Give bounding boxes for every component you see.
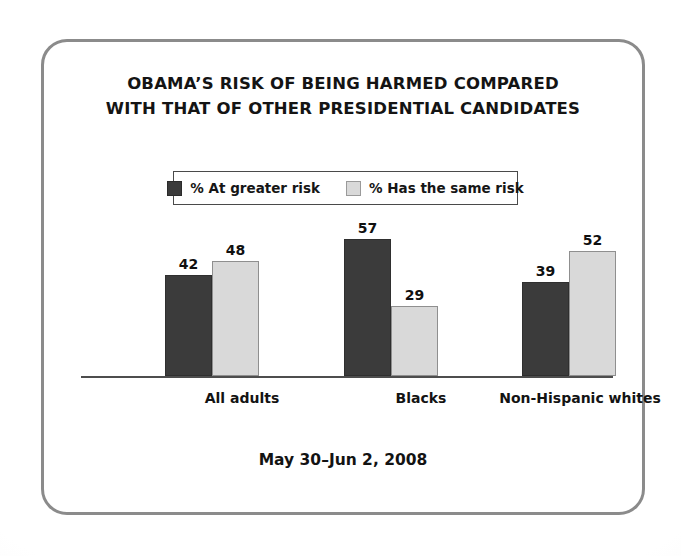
bar-wrap-all-adults-greater: 42 [165, 232, 212, 376]
bar-group-non-hispanic-whites: 39 52 [522, 232, 616, 376]
bar-blacks-same [391, 306, 438, 376]
bar-wrap-blacks-greater: 57 [344, 232, 391, 376]
bar-value-all-adults-greater: 42 [165, 256, 212, 272]
legend-label-at-greater-risk: % At greater risk [190, 180, 320, 196]
bar-all-adults-greater [165, 275, 212, 376]
legend-entry-has-the-same-risk: % Has the same risk [346, 180, 524, 196]
legend-entry-at-greater-risk: % At greater risk [167, 180, 320, 196]
chart-card: OBAMA’S RISK OF BEING HARMED COMPARED WI… [41, 39, 645, 515]
bar-value-all-adults-same: 48 [212, 242, 259, 258]
legend-label-has-the-same-risk: % Has the same risk [369, 180, 524, 196]
legend-swatch-icon-light [346, 181, 361, 196]
chart-title: OBAMA’S RISK OF BEING HARMED COMPARED WI… [44, 71, 642, 121]
bar-blacks-greater [344, 239, 391, 376]
bar-wrap-blacks-same: 29 [391, 232, 438, 376]
bar-value-blacks-same: 29 [391, 287, 438, 303]
bar-non-hispanic-whites-greater [522, 282, 569, 376]
bar-group-all-adults: 42 48 [165, 232, 259, 376]
legend-swatch-icon-dark [167, 181, 182, 196]
chart-legend: % At greater risk % Has the same risk [173, 171, 518, 205]
bar-non-hispanic-whites-same [569, 251, 616, 376]
bar-value-non-hispanic-whites-greater: 39 [522, 263, 569, 279]
bar-value-non-hispanic-whites-same: 52 [569, 232, 616, 248]
bar-wrap-non-hispanic-whites-greater: 39 [522, 232, 569, 376]
category-label-all-adults: All adults [162, 390, 322, 406]
bar-group-blacks: 57 29 [344, 232, 438, 376]
chart-plot-area: 42 48 57 29 39 52 [81, 232, 613, 378]
bar-value-blacks-greater: 57 [344, 220, 391, 236]
bar-all-adults-same [212, 261, 259, 376]
category-label-non-hispanic-whites: Non-Hispanic whites [470, 390, 681, 406]
bar-wrap-non-hispanic-whites-same: 52 [569, 232, 616, 376]
chart-title-line-2: WITH THAT OF OTHER PRESIDENTIAL CANDIDAT… [44, 96, 642, 121]
x-axis-baseline [81, 376, 613, 378]
bar-wrap-all-adults-same: 48 [212, 232, 259, 376]
chart-title-line-1: OBAMA’S RISK OF BEING HARMED COMPARED [127, 74, 559, 93]
survey-date-range: May 30–Jun 2, 2008 [44, 451, 642, 469]
